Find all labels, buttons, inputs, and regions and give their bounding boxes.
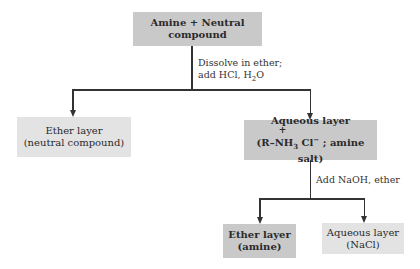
node-aqueous-layer-amine-salt: Aqueous layer + (R–NH3 Cl− ; amine salt): [244, 120, 377, 160]
connector-line: [259, 198, 261, 218]
node-aqueous-layer-nacl: Aqueous layer (NaCl): [322, 223, 404, 254]
node-label: Aqueous layer: [327, 227, 399, 239]
arrow-down-icon: [257, 217, 263, 224]
arrow-down-icon: [70, 110, 76, 117]
node-label: (NaCl): [346, 239, 379, 251]
connector-line: [72, 89, 311, 91]
edge-label-line1: Dissolve in ether;: [198, 57, 282, 69]
node-ether-layer-amine: Ether layer (amine): [223, 224, 296, 258]
edge-label-dissolve: Dissolve in ether; add HCl, H2O: [198, 57, 282, 85]
connector-line: [310, 160, 312, 199]
node-ether-layer-neutral: Ether layer (neutral compound): [17, 117, 131, 157]
edge-label-line2: add HCl, H2O: [198, 69, 282, 85]
node-label: (amine): [238, 241, 282, 253]
connector-line: [72, 89, 74, 111]
positive-charge: +: [279, 127, 287, 134]
connector-line: [310, 89, 312, 114]
edge-label-add-naoh: Add NaOH, ether: [316, 174, 400, 186]
node-label: Ether layer: [228, 229, 290, 241]
arrow-down-icon: [361, 216, 367, 223]
node-label: (neutral compound): [24, 137, 125, 149]
connector-line: [364, 198, 366, 217]
node-label: Amine + Neutral compound: [133, 17, 262, 41]
node-amine-neutral-compound: Amine + Neutral compound: [133, 12, 262, 46]
connector-line: [259, 198, 365, 200]
node-label: Ether layer: [45, 125, 102, 137]
connector-line: [191, 46, 193, 90]
